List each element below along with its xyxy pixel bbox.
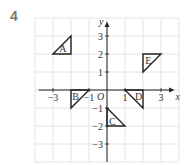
- triangle-e: E: [143, 54, 161, 72]
- x-axis-label: x: [174, 91, 180, 102]
- y-axis-label: y: [98, 16, 104, 27]
- origin-label: O: [97, 91, 104, 102]
- y-tick-label: 2: [98, 49, 103, 60]
- y-axis-arrow-icon: [105, 22, 110, 27]
- y-tick-label: 1: [98, 67, 103, 78]
- x-tick-label: 1: [123, 92, 128, 103]
- triangle-a: A: [53, 36, 71, 54]
- x-tick-label: 3: [159, 92, 164, 103]
- triangle-label: B: [72, 91, 79, 102]
- y-tick-label: −1: [92, 103, 103, 114]
- x-tick-label: −3: [48, 92, 59, 103]
- y-tick-label: −2: [92, 121, 103, 132]
- triangle-label: C: [109, 116, 116, 127]
- triangle-c: C: [107, 108, 125, 127]
- y-tick-label: −3: [92, 139, 103, 150]
- triangle-label: A: [59, 43, 67, 54]
- triangle-d: D: [125, 90, 143, 108]
- coordinate-grid: xyO−3−113321−1−2−3 ABCDE: [0, 0, 188, 165]
- y-tick-label: 3: [98, 31, 103, 42]
- triangle-label: D: [135, 91, 142, 102]
- triangle-label: E: [145, 55, 151, 66]
- x-axis-arrow-icon: [169, 88, 174, 93]
